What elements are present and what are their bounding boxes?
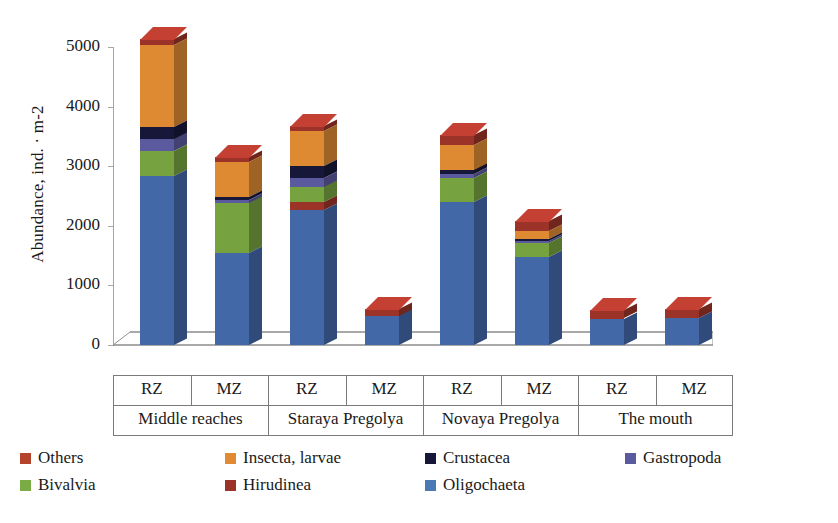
legend-color-swatch <box>225 453 236 464</box>
bar-top-face <box>215 144 262 157</box>
x-axis-zone-divider <box>578 375 579 405</box>
x-axis-zone-label: RZ <box>113 379 191 399</box>
bar-segment[interactable] <box>290 202 324 210</box>
bar-stack <box>365 309 399 345</box>
y-axis-tick-label: 4000 <box>0 96 100 116</box>
y-axis-tick-label: 0 <box>0 334 100 354</box>
bar-segment-front <box>515 243 549 257</box>
bar-segment[interactable] <box>515 221 549 231</box>
bar-segment-side <box>324 203 337 345</box>
bar-column[interactable] <box>665 309 699 345</box>
legend-item[interactable]: Oligochaeta <box>425 475 525 495</box>
bar-column[interactable] <box>365 309 399 345</box>
x-axis-group-label: Staraya Pregolya <box>268 409 423 429</box>
bar-segment[interactable] <box>140 139 174 151</box>
bar-segment-front <box>665 309 699 318</box>
x-axis-zone-divider <box>423 375 424 405</box>
x-axis-zone-label: MZ <box>191 379 269 399</box>
bar-segment[interactable] <box>290 166 324 178</box>
bar-segment[interactable] <box>140 151 174 176</box>
bar-segment[interactable] <box>365 316 399 345</box>
bar-segment[interactable] <box>440 145 474 171</box>
bar-top-face <box>515 208 562 221</box>
bar-segment[interactable] <box>290 178 324 188</box>
bar-column[interactable] <box>140 39 174 345</box>
bar-segment-front <box>140 176 174 345</box>
bar-segment[interactable] <box>290 187 324 202</box>
legend-label: Gastropoda <box>643 448 721 468</box>
legend-item[interactable]: Hirudinea <box>225 475 311 495</box>
bar-segment-front <box>440 178 474 202</box>
bar-segment-front <box>290 187 324 202</box>
bar-top-face <box>590 297 637 310</box>
legend-item[interactable]: Crustacea <box>425 448 510 468</box>
x-axis-zone-label: MZ <box>501 379 579 399</box>
legend-color-swatch <box>425 453 436 464</box>
bar-segment[interactable] <box>140 127 174 140</box>
legend-color-swatch <box>225 480 236 491</box>
legend-color-swatch <box>625 453 636 464</box>
x-axis-group-label: Novaya Pregolya <box>423 409 578 429</box>
bar-segment[interactable] <box>515 243 549 257</box>
bar-segment-front <box>140 139 174 151</box>
bar-segment[interactable] <box>515 231 549 239</box>
x-axis-zone-label: RZ <box>268 379 346 399</box>
bar-segment-front <box>665 318 699 345</box>
legend-label: Bivalvia <box>38 475 96 495</box>
bar-segment[interactable] <box>590 310 624 318</box>
x-axis-group-divider <box>423 405 424 435</box>
bar-segment[interactable] <box>140 45 174 127</box>
x-axis-group-divider <box>268 405 269 435</box>
bar-segment-front <box>140 45 174 127</box>
bar-segment[interactable] <box>665 318 699 345</box>
bar-segment[interactable] <box>440 135 474 145</box>
y-axis-tick-label: 5000 <box>0 36 100 56</box>
bar-series-layer <box>113 30 713 375</box>
bar-column[interactable] <box>290 126 324 345</box>
legend-item[interactable]: Bivalvia <box>20 475 96 495</box>
bar-column[interactable] <box>440 135 474 345</box>
bar-segment[interactable] <box>365 309 399 317</box>
x-axis-group-label: Middle reaches <box>113 409 268 429</box>
bar-stack <box>590 310 624 345</box>
bar-segment[interactable] <box>215 253 249 345</box>
bar-segment[interactable] <box>290 131 324 166</box>
x-axis-bottom-rule <box>113 435 733 436</box>
chart-container: Abundance, ind. · m-2 010002000300040005… <box>0 0 838 523</box>
bar-segment-side <box>549 250 562 345</box>
bar-column[interactable] <box>215 157 249 345</box>
bar-segment-front <box>215 253 249 345</box>
bar-segment-front <box>290 178 324 188</box>
bar-top-face <box>290 113 337 126</box>
legend-item[interactable]: Gastropoda <box>625 448 721 468</box>
bar-stack <box>140 39 174 345</box>
bar-segment-front <box>515 257 549 345</box>
bar-segment[interactable] <box>590 319 624 345</box>
bar-segment[interactable] <box>440 202 474 345</box>
legend-label: Insecta, larvae <box>243 448 341 468</box>
bar-segment[interactable] <box>515 257 549 345</box>
legend-item[interactable]: Insecta, larvae <box>225 448 341 468</box>
x-axis-zone-label: RZ <box>578 379 656 399</box>
bar-segment-front <box>290 202 324 210</box>
bar-segment[interactable] <box>440 178 474 202</box>
x-axis-zone-label: MZ <box>346 379 424 399</box>
bar-segment-front <box>290 166 324 178</box>
bar-segment[interactable] <box>140 176 174 345</box>
legend-label: Crustacea <box>443 448 510 468</box>
bar-segment[interactable] <box>215 162 249 197</box>
bar-segment[interactable] <box>665 309 699 318</box>
bar-column[interactable] <box>515 221 549 345</box>
legend-label: Oligochaeta <box>443 475 525 495</box>
bar-segment[interactable] <box>215 203 249 253</box>
legend-color-swatch <box>425 480 436 491</box>
x-axis-zone-divider <box>656 375 657 405</box>
x-axis-group-label: The mouth <box>578 409 733 429</box>
legend-item[interactable]: Others <box>20 448 83 468</box>
x-axis-zone-divider <box>346 375 347 405</box>
bar-segment[interactable] <box>290 210 324 345</box>
bar-column[interactable] <box>590 310 624 345</box>
bar-segment-front <box>590 319 624 345</box>
x-axis-zone-divider <box>191 375 192 405</box>
bar-segment-front <box>215 162 249 197</box>
